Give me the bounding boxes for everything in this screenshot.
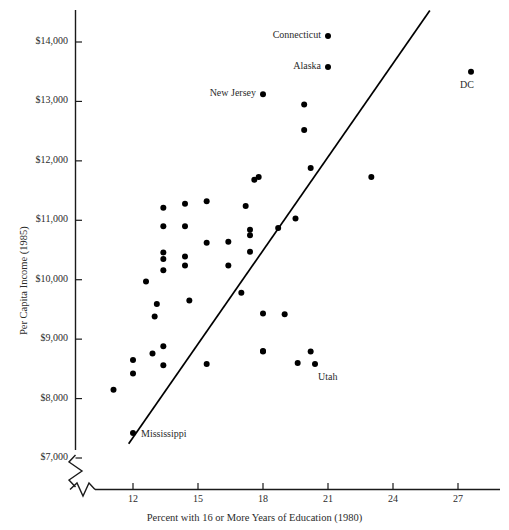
y-axis-tick-label: $7,000 bbox=[8, 451, 68, 462]
data-point bbox=[468, 69, 474, 75]
data-point bbox=[308, 349, 314, 355]
y-axis-tick-label: $13,000 bbox=[8, 94, 68, 105]
data-point bbox=[160, 362, 166, 368]
data-point bbox=[160, 249, 166, 255]
data-point-label: Mississippi bbox=[141, 428, 187, 439]
y-axis-tick-label: $11,000 bbox=[8, 213, 68, 224]
data-point bbox=[152, 314, 158, 320]
data-point bbox=[301, 127, 307, 133]
y-axis-break-symbol bbox=[69, 455, 82, 487]
data-point bbox=[186, 298, 192, 304]
data-point-label: DC bbox=[460, 79, 474, 90]
data-point bbox=[225, 239, 231, 245]
data-point bbox=[150, 350, 156, 356]
data-point bbox=[238, 290, 244, 296]
plot-canvas bbox=[0, 0, 509, 530]
data-point bbox=[182, 201, 188, 207]
data-point bbox=[368, 174, 374, 180]
data-point bbox=[308, 165, 314, 171]
data-point bbox=[260, 311, 266, 317]
data-point bbox=[130, 371, 136, 377]
data-point bbox=[256, 174, 262, 180]
data-point bbox=[160, 267, 166, 273]
data-point bbox=[247, 227, 253, 233]
data-point bbox=[293, 216, 299, 222]
data-point bbox=[260, 349, 266, 355]
data-point bbox=[282, 311, 288, 317]
data-point bbox=[160, 343, 166, 349]
data-point bbox=[160, 256, 166, 262]
data-point bbox=[154, 301, 160, 307]
data-point bbox=[312, 361, 318, 367]
data-point bbox=[247, 232, 253, 238]
x-axis-tick-marks bbox=[133, 483, 458, 490]
y-axis-tick-label: $9,000 bbox=[8, 332, 68, 343]
data-point bbox=[160, 205, 166, 211]
x-axis-tick-label: 18 bbox=[243, 493, 283, 504]
data-point bbox=[160, 223, 166, 229]
data-point bbox=[325, 64, 331, 70]
data-point-label: New Jersey bbox=[210, 87, 256, 98]
data-point bbox=[225, 262, 231, 268]
data-point bbox=[275, 225, 281, 231]
data-point bbox=[111, 387, 117, 393]
x-axis-tick-label: 27 bbox=[438, 493, 478, 504]
x-axis-tick-label: 21 bbox=[308, 493, 348, 504]
data-point bbox=[260, 91, 266, 97]
data-point bbox=[325, 33, 331, 39]
data-points-group bbox=[111, 33, 475, 436]
y-axis-tick-label: $10,000 bbox=[8, 273, 68, 284]
x-axis-tick-label: 15 bbox=[178, 493, 218, 504]
data-point bbox=[182, 254, 188, 260]
y-axis-title: Per Capita Income (1985) bbox=[18, 226, 29, 335]
x-axis-tick-label: 12 bbox=[113, 493, 153, 504]
data-point bbox=[182, 223, 188, 229]
data-point bbox=[130, 357, 136, 363]
data-point-label: Alaska bbox=[293, 60, 321, 71]
data-point-label: Utah bbox=[318, 371, 337, 382]
y-axis-tick-marks bbox=[76, 42, 83, 458]
y-axis-tick-label: $12,000 bbox=[8, 154, 68, 165]
scatter-plot-figure: $7,000$8,000$9,000$10,000$11,000$12,000$… bbox=[0, 0, 509, 530]
data-point bbox=[204, 361, 210, 367]
data-point-label: Connecticut bbox=[273, 29, 321, 40]
data-point bbox=[204, 240, 210, 246]
x-axis-title: Percent with 16 or More Years of Educati… bbox=[0, 512, 509, 523]
data-point bbox=[243, 203, 249, 209]
axes bbox=[69, 10, 500, 496]
x-axis-tick-label: 24 bbox=[373, 493, 413, 504]
y-axis-tick-label: $8,000 bbox=[8, 392, 68, 403]
data-point bbox=[295, 360, 301, 366]
data-point bbox=[182, 262, 188, 268]
data-point bbox=[301, 101, 307, 107]
y-axis-tick-label: $14,000 bbox=[8, 35, 68, 46]
data-point bbox=[204, 198, 210, 204]
data-point bbox=[247, 249, 253, 255]
data-point bbox=[143, 278, 149, 284]
data-point bbox=[130, 430, 136, 436]
